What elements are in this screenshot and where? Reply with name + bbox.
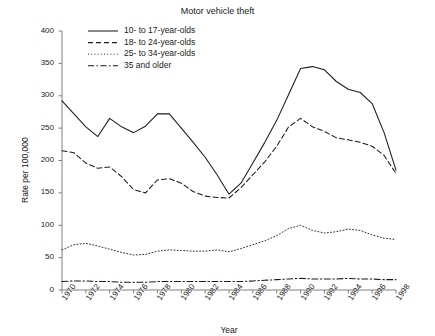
chart-container: Motor vehicle theft Rate per 100,000 Yea…	[0, 0, 435, 336]
series-line-0	[62, 67, 396, 195]
series-line-3	[62, 278, 396, 282]
plot-area	[0, 0, 435, 336]
series-line-2	[62, 225, 396, 255]
series-line-1	[62, 118, 396, 198]
